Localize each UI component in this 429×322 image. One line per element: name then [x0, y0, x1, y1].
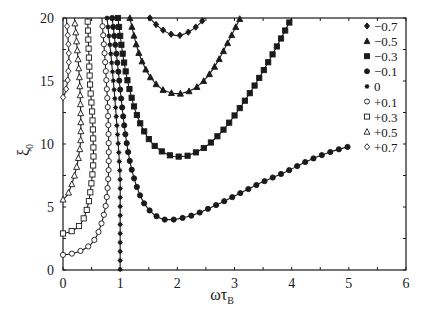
curve-line	[63, 18, 81, 199]
legend-entry: +0.3	[365, 110, 398, 125]
legend-label: −0.3	[374, 49, 398, 64]
legend-entry: +0.7	[365, 140, 399, 155]
x-tick-labels: 0123456	[60, 276, 410, 291]
series-markers	[127, 15, 243, 96]
chart: 0123456 05101520 ωτB ξ0 −0.7−0.5−0.3−0.1…	[0, 0, 429, 322]
curve-line	[130, 18, 240, 94]
series-markers	[110, 15, 351, 222]
legend-label: −0.1	[374, 64, 398, 79]
y-tick-label: 15	[40, 74, 54, 89]
x-tick-label: 5	[345, 276, 352, 291]
legend-entry: −0.5	[364, 34, 397, 49]
legend-entry: −0.1	[365, 64, 398, 79]
legend-label: +0.1	[374, 95, 398, 110]
curve-line	[112, 18, 349, 220]
y-axis-label: ξ0	[15, 144, 35, 156]
y-tick-label: 5	[47, 200, 54, 215]
series-markers	[60, 24, 111, 258]
legend-label: +0.7	[374, 140, 398, 155]
legend-entry: −0.3	[365, 49, 398, 64]
svg-text:ξ0: ξ0	[15, 144, 35, 156]
curve-line	[118, 18, 292, 157]
x-tick-label: 3	[231, 276, 238, 291]
x-tick-label: 2	[174, 276, 181, 291]
x-tick-label: 6	[403, 276, 410, 291]
legend-entry: +0.1	[365, 95, 398, 110]
legend-label: +0.5	[374, 125, 398, 140]
y-tick-label: 20	[40, 11, 54, 26]
legend-label: +0.3	[374, 110, 398, 125]
legend-label: −0.5	[374, 34, 398, 49]
x-tick-label: 1	[117, 276, 124, 291]
plot-area	[60, 15, 406, 272]
legend-entry: +0.5	[364, 125, 397, 140]
y-tick-label: 10	[40, 137, 54, 152]
data-markers	[60, 15, 350, 272]
legend-label: −0.7	[374, 19, 398, 34]
legend-entry: 0	[365, 79, 381, 94]
legend-label: 0	[374, 79, 381, 94]
y-tick-labels: 05101520	[40, 11, 54, 278]
legend-entry: −0.7	[365, 19, 399, 34]
x-tick-label: 0	[60, 276, 67, 291]
legend: −0.7−0.5−0.3−0.10+0.1+0.3+0.5+0.7	[364, 19, 398, 155]
x-tick-label: 4	[288, 276, 295, 291]
series-markers	[60, 23, 71, 101]
series-markers	[115, 15, 292, 159]
y-tick-label: 0	[47, 263, 54, 278]
